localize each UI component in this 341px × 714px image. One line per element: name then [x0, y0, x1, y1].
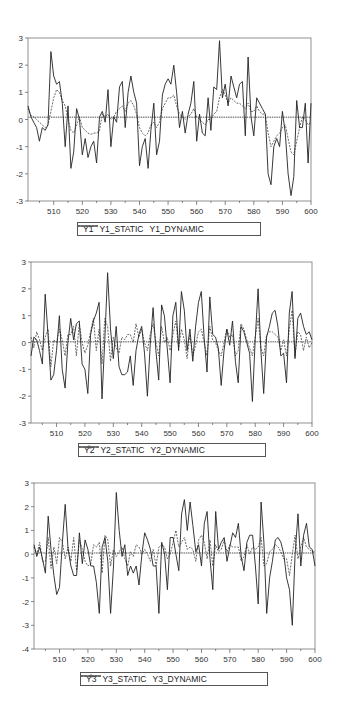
- x-tick-label: 540: [138, 655, 152, 664]
- legend-item-y3-static: Y3_STATIC: [102, 674, 146, 684]
- x-tick-label: 580: [252, 655, 266, 664]
- legend-item-y3-dynamic: Y3_DYNAMIC: [153, 674, 207, 684]
- x-tick-label: 530: [110, 655, 124, 664]
- y-tick-label: -2: [22, 598, 30, 607]
- series-y3: [34, 493, 315, 626]
- x-tick-label: 560: [195, 655, 209, 664]
- legend-label-y3-dynamic: Y3_DYNAMIC: [153, 674, 207, 684]
- y-tick-label: -1: [22, 574, 30, 583]
- dash-dot-line-icon: [81, 673, 101, 679]
- x-tick-label: 510: [53, 655, 67, 664]
- y-tick-label: 2: [25, 503, 30, 512]
- y-tick-label: 1: [25, 526, 30, 535]
- legend-y3: Y3 Y3_STATIC Y3_DYNAMIC: [80, 672, 268, 686]
- chart-y3: 3210-1-2-3-45105205305405505605705805906…: [0, 0, 341, 714]
- x-tick-label: 520: [81, 655, 95, 664]
- x-tick-label: 590: [280, 655, 294, 664]
- x-tick-label: 550: [166, 655, 180, 664]
- y-tick-label: -3: [22, 621, 30, 630]
- y-tick-label: 3: [25, 479, 30, 488]
- legend-label-y3-static: Y3_STATIC: [102, 674, 146, 684]
- y-tick-label: 0: [25, 550, 30, 559]
- plot-y3: 3210-1-2-3-45105205305405505605705805906…: [0, 0, 341, 665]
- x-tick-label: 570: [223, 655, 237, 664]
- y-tick-label: -4: [22, 645, 30, 654]
- x-tick-label: 600: [308, 655, 322, 664]
